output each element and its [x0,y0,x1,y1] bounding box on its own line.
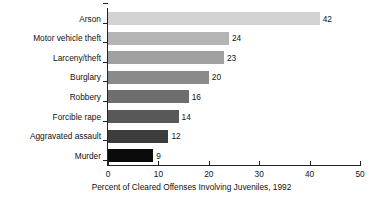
category-label: Murder [75,152,101,161]
y-axis-tick [103,140,108,141]
bar [108,12,320,25]
x-axis-tick-label: 50 [355,170,364,179]
x-axis-tick [360,161,361,166]
bar [108,149,153,162]
bar [108,130,168,143]
bar-value-label: 14 [182,113,191,122]
x-axis-tick-label: 30 [255,170,264,179]
bar-value-label: 12 [171,132,180,141]
x-axis-tick [310,161,311,166]
category-label: Motor vehicle theft [33,34,101,43]
x-axis-tick-label: 10 [154,170,163,179]
x-axis-tick [108,161,109,166]
bar [108,90,189,103]
plot-area: 422423201614129 [108,8,360,166]
y-axis-tick [103,23,108,24]
bar-value-label: 42 [323,15,332,24]
y-axis-tick [103,101,108,102]
category-label: Arson [79,15,101,24]
x-axis-line [107,165,361,166]
x-axis-tick-label: 0 [106,170,111,179]
bar-value-label: 20 [212,73,221,82]
x-axis-tick [209,161,210,166]
x-axis-tick [158,161,159,166]
x-axis-tick-label: 40 [305,170,314,179]
category-axis-labels: ArsonMotor vehicle theftLarceny/theftBur… [0,0,101,170]
bar [108,32,229,45]
category-label: Larceny/theft [53,54,101,63]
category-label: Aggravated assault [30,132,101,141]
category-label: Robbery [70,93,101,102]
y-axis-tick [103,3,108,4]
bar [108,110,179,123]
bar [108,71,209,84]
bar-value-label: 16 [192,93,201,102]
bar-value-label: 9 [156,152,161,161]
bar-value-label: 23 [227,54,236,63]
y-axis-tick [103,42,108,43]
category-label: Burglary [70,73,101,82]
x-axis-tick-label: 20 [204,170,213,179]
y-axis-tick [103,81,108,82]
y-axis-tick [103,121,108,122]
category-label: Forcible rape [53,113,101,122]
x-axis-title: Percent of Cleared Offenses Involving Ju… [0,182,383,192]
bar [108,51,224,64]
bar-chart: ArsonMotor vehicle theftLarceny/theftBur… [0,0,383,198]
y-axis-tick [103,62,108,63]
bar-value-label: 24 [232,34,241,43]
x-axis-tick [259,161,260,166]
